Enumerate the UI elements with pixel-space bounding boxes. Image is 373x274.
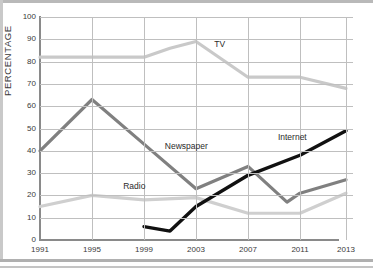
x-axis-tick-label: 1999 bbox=[135, 246, 153, 254]
gridline-vertical bbox=[300, 17, 301, 240]
y-axis-tick-label: 100 bbox=[2, 13, 36, 21]
y-axis-tick-label: 50 bbox=[2, 125, 36, 133]
y-axis-tick-label: 30 bbox=[2, 169, 36, 177]
line-chart: PERCENTAGE 0102030405060708090100 199119… bbox=[0, 0, 373, 274]
y-axis-tick-label: 80 bbox=[2, 58, 36, 66]
x-axis-tick-label: 2007 bbox=[239, 246, 257, 254]
gridline-vertical bbox=[92, 17, 93, 240]
frame-bottom-border-secondary bbox=[0, 266, 373, 268]
series-label-internet: Internet bbox=[278, 132, 307, 142]
gridline-vertical bbox=[144, 17, 145, 240]
x-axis-tick-label: 2011 bbox=[291, 246, 308, 254]
y-axis-tick-label: 20 bbox=[2, 191, 36, 199]
frame-bottom-border bbox=[0, 259, 373, 262]
y-axis-tick-label: 60 bbox=[2, 102, 36, 110]
y-axis-tick-labels: 0102030405060708090100 bbox=[0, 0, 36, 240]
x-axis-tick-label: 2003 bbox=[187, 246, 205, 254]
y-axis-tick-label: 40 bbox=[2, 147, 36, 155]
gridline-vertical bbox=[346, 17, 347, 240]
y-axis-tick-label: 90 bbox=[2, 35, 36, 43]
plot-area bbox=[40, 17, 353, 240]
frame-top-border bbox=[0, 0, 373, 3]
series-label-tv: TV bbox=[214, 39, 225, 49]
x-axis-tick-label: 2013 bbox=[337, 246, 355, 254]
y-axis-tick-label: 10 bbox=[2, 214, 36, 222]
gridline-vertical bbox=[196, 17, 197, 240]
y-axis-tick-label: 0 bbox=[2, 236, 36, 244]
series-label-newspaper: Newspaper bbox=[165, 141, 208, 151]
series-label-radio: Radio bbox=[123, 181, 145, 191]
gridline-vertical bbox=[248, 17, 249, 240]
y-axis-tick-label: 70 bbox=[2, 80, 36, 88]
x-axis-tick-label: 1991 bbox=[31, 246, 49, 254]
x-axis-tick-label: 1995 bbox=[83, 246, 101, 254]
